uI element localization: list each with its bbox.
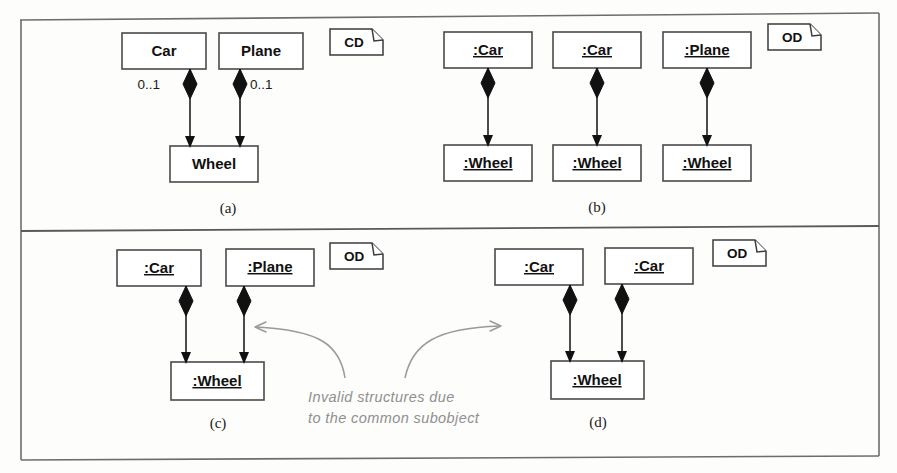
composition-car1-wheel1-b	[481, 68, 495, 147]
object-box-plane-c-label: :Plane	[247, 258, 292, 275]
note-tag-fold	[372, 243, 383, 255]
class-box-plane[interactable]: Plane	[219, 33, 303, 69]
note-tag-cd-a: CD	[330, 29, 383, 55]
outer-frame-top	[20, 13, 879, 20]
annotation-line-1: Invalid structures due	[308, 389, 455, 405]
panel-b: OD :Car :Wheel :Car	[444, 24, 821, 216]
composition-diamond	[237, 286, 251, 316]
multiplicity-right: 0..1	[250, 77, 273, 92]
class-box-car[interactable]: Car	[122, 33, 206, 69]
object-box-wheel-d-label: :Wheel	[572, 371, 621, 388]
note-tag-fold	[810, 24, 821, 36]
note-tag-fold	[755, 240, 766, 252]
object-box-car-d-2-label: :Car	[634, 257, 664, 274]
object-box-car-2-label: :Car	[582, 41, 612, 58]
annotation-arrow-left-curve	[256, 327, 345, 378]
composition-diamond	[233, 69, 247, 99]
composition-diamond	[615, 284, 629, 314]
uml-figure: CD Car Plane Wheel 0..1	[0, 0, 897, 473]
object-box-wheel-c-label: :Wheel	[192, 372, 241, 389]
object-box-car-c-label: :Car	[144, 259, 174, 276]
panel-caption-d: (d)	[589, 414, 607, 431]
note-tag-fold	[372, 29, 383, 41]
panel-caption-b: (b)	[588, 199, 606, 216]
note-tag-label: OD	[344, 249, 365, 264]
object-box-plane[interactable]: :Plane	[663, 32, 751, 68]
panel-caption-a: (a)	[220, 200, 237, 217]
object-box-car-1[interactable]: :Car	[444, 32, 532, 68]
object-box-plane-c[interactable]: :Plane	[226, 249, 314, 286]
object-box-wheel-3-label: :Wheel	[682, 154, 731, 171]
panel-caption-c: (c)	[210, 415, 227, 432]
object-box-plane-label: :Plane	[684, 41, 729, 58]
composition-diamond	[700, 68, 714, 98]
outer-frame-bottom	[21, 456, 879, 460]
composition-diamond	[183, 69, 197, 99]
note-tag-label: OD	[727, 246, 748, 261]
note-tag-label: CD	[344, 35, 364, 50]
composition-car2-wheel2-b	[590, 68, 604, 147]
annotation-arrow-right-curve	[405, 326, 500, 378]
object-box-wheel-c[interactable]: :Wheel	[171, 362, 264, 400]
note-tag-label: OD	[782, 30, 803, 45]
composition-car1-wheel-d	[563, 285, 577, 363]
object-box-car-1-label: :Car	[473, 41, 503, 58]
class-box-car-label: Car	[151, 42, 176, 59]
note-tag-od-d: OD	[713, 240, 766, 266]
object-box-car-2[interactable]: :Car	[553, 32, 641, 68]
composition-diamond	[481, 68, 495, 98]
class-box-plane-label: Plane	[241, 42, 281, 59]
composition-car-wheel-a: 0..1	[137, 69, 197, 148]
object-box-car-c[interactable]: :Car	[117, 250, 201, 286]
composition-diamond	[590, 68, 604, 98]
object-box-wheel-3[interactable]: :Wheel	[663, 145, 751, 181]
object-box-wheel-1-label: :Wheel	[463, 154, 512, 171]
object-box-car-d-1-label: :Car	[524, 258, 554, 275]
composition-diamond	[179, 286, 193, 316]
composition-diamond	[563, 285, 577, 315]
composition-car2-wheel-d	[615, 284, 629, 363]
annotation-callout: Invalid structures due to the common sub…	[255, 321, 501, 426]
panel-d: OD :Car :Car :Wheel	[495, 240, 766, 431]
composition-plane-wheel-c	[237, 286, 251, 364]
panel-a: CD Car Plane Wheel 0..1	[122, 29, 383, 217]
object-box-car-d-1[interactable]: :Car	[495, 249, 583, 285]
object-box-wheel-2-label: :Wheel	[572, 154, 621, 171]
object-box-car-d-2[interactable]: :Car	[605, 248, 693, 284]
annotation-line-2: to the common subobject	[308, 410, 480, 426]
class-box-wheel[interactable]: Wheel	[170, 146, 258, 182]
note-tag-od-c: OD	[330, 243, 383, 269]
note-tag-od-b: OD	[768, 24, 821, 50]
object-box-wheel-d[interactable]: :Wheel	[551, 361, 644, 399]
figure-canvas: CD Car Plane Wheel 0..1	[0, 0, 897, 473]
composition-plane-wheel-a: 0..1	[233, 69, 273, 148]
composition-car-wheel-c	[179, 286, 193, 364]
class-box-wheel-label: Wheel	[192, 155, 236, 172]
object-box-wheel-2[interactable]: :Wheel	[553, 145, 641, 181]
composition-plane-wheel3-b	[700, 68, 714, 147]
multiplicity-left: 0..1	[137, 77, 160, 92]
object-box-wheel-1[interactable]: :Wheel	[444, 145, 532, 181]
panel-divider	[21, 226, 879, 231]
